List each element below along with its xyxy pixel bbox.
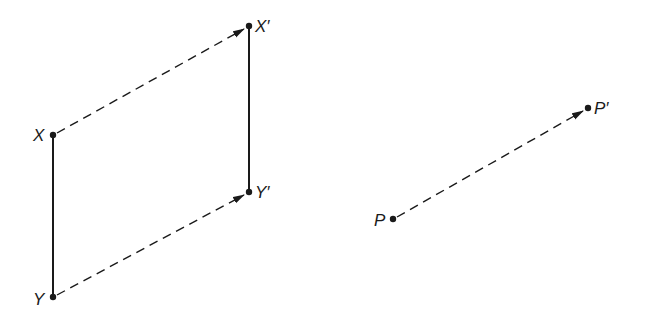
- label-y: Y: [33, 290, 46, 309]
- point-y: [50, 294, 56, 300]
- label-p: P: [374, 211, 386, 230]
- point-x-prime: [246, 23, 252, 29]
- translation-diagram: X X′ Y Y′ P P′: [0, 0, 645, 318]
- point-p: [390, 216, 396, 222]
- point-y-prime: [246, 189, 252, 195]
- arrow-p-to-pp: [397, 111, 583, 217]
- arrow-y-to-yp: [57, 195, 244, 295]
- label-y-prime: Y′: [255, 183, 270, 202]
- label-x: X: [32, 126, 45, 145]
- label-p-prime: P′: [594, 99, 609, 118]
- arrow-x-to-xp: [57, 29, 244, 133]
- label-x-prime: X′: [254, 17, 270, 36]
- point-x: [50, 132, 56, 138]
- point-p-prime: [585, 105, 591, 111]
